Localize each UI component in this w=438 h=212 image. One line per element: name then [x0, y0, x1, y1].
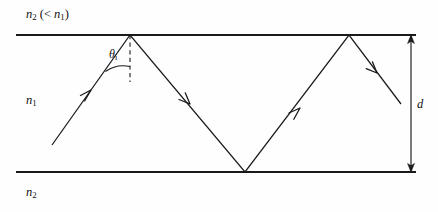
- thickness-label: d: [417, 98, 423, 111]
- optics-figure: n2 (< n1) n1 n2 θi d: [0, 0, 438, 212]
- cladding-top-index-label: n2 (< n1): [26, 8, 69, 22]
- core-index-label: n1: [26, 94, 37, 108]
- second-reflected-ray-arrow-icon: [289, 108, 300, 119]
- waveguide-diagram: [0, 0, 438, 212]
- incidence-angle-arc: [106, 66, 131, 72]
- incoming-ray-arrow-icon: [81, 90, 92, 101]
- thickness-dimension-arrow: [408, 35, 415, 172]
- ray-path: [52, 35, 401, 172]
- cladding-bottom-index-label: n2: [26, 186, 37, 200]
- outgoing-ray-arrow-icon: [366, 62, 377, 73]
- incidence-angle-label: θi: [109, 48, 117, 63]
